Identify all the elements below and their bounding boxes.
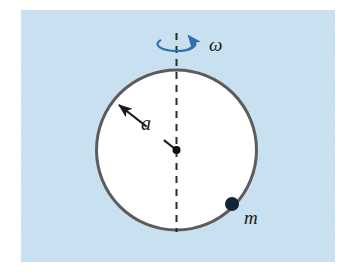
physics-diagram: ω a m (0, 0, 353, 277)
figure-container: ω a m (0, 0, 353, 277)
center-point-dot (173, 146, 181, 154)
omega-label: ω (209, 34, 222, 55)
mass-label: m (244, 207, 258, 228)
mass-point-dot (225, 197, 239, 211)
radius-label: a (141, 112, 151, 134)
